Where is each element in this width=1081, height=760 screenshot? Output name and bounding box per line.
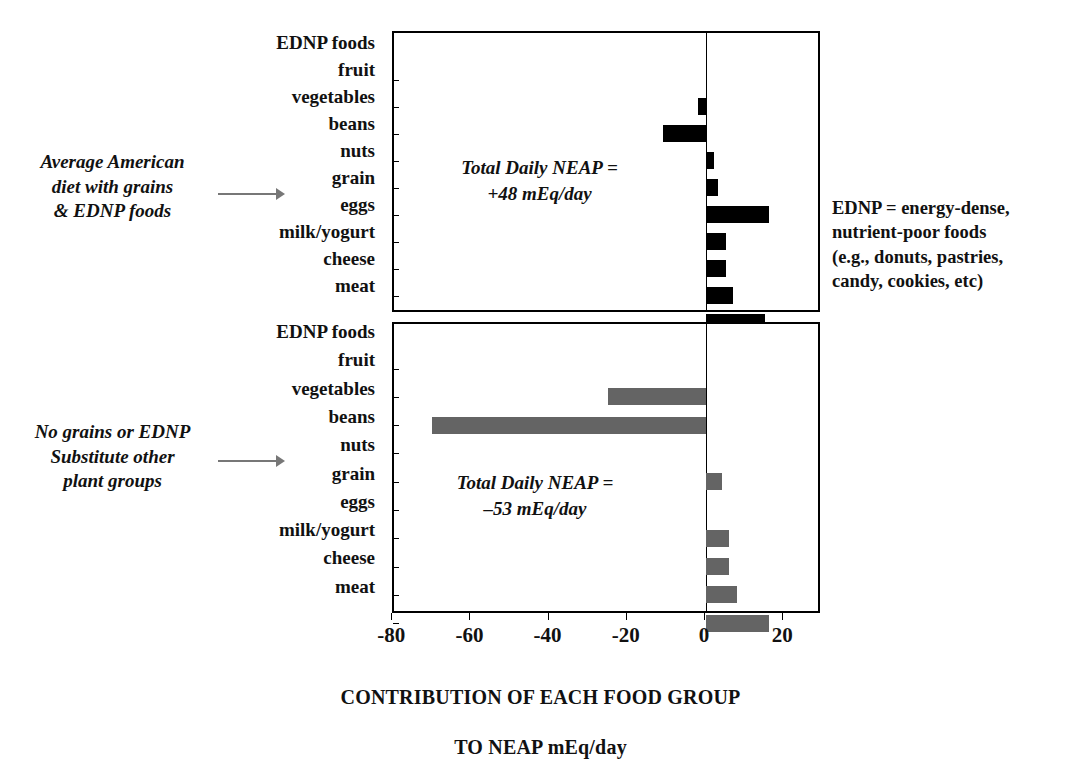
ednp-definition-note: EDNP = energy-dense, nutrient-poor foods… bbox=[832, 196, 1077, 294]
category-label-fruit: fruit bbox=[338, 350, 375, 369]
category-label-beans: beans bbox=[329, 407, 375, 426]
category-label-eggs: eggs bbox=[340, 195, 375, 214]
y-tick bbox=[393, 425, 399, 426]
y-tick bbox=[393, 482, 399, 483]
category-label-milk-yogurt: milk/yogurt bbox=[279, 222, 375, 241]
bar-cheese bbox=[706, 586, 737, 603]
x-tick bbox=[704, 613, 705, 620]
y-tick bbox=[393, 595, 399, 596]
bar-nuts bbox=[706, 179, 718, 196]
x-axis-title-line1: CONTRIBUTION OF EACH FOOD GROUP bbox=[341, 686, 741, 708]
category-label-vegetables: vegetables bbox=[292, 379, 375, 398]
y-tick bbox=[393, 80, 399, 81]
neap-total-label-bottom: Total Daily NEAP = –53 mEq/day bbox=[420, 470, 650, 521]
x-tick bbox=[548, 613, 549, 620]
x-axis-title: CONTRIBUTION OF EACH FOOD GROUP TO NEAP … bbox=[0, 660, 1081, 760]
bar-beans bbox=[706, 152, 714, 169]
y-tick bbox=[393, 296, 399, 297]
panel-annotation-top: Average American diet with grains & EDNP… bbox=[10, 150, 215, 224]
y-tick bbox=[393, 369, 399, 370]
category-label-nuts: nuts bbox=[340, 435, 375, 454]
chart-panel-bottom bbox=[392, 322, 820, 613]
panel-annotation-bottom: No grains or EDNP Substitute other plant… bbox=[10, 420, 215, 494]
x-axis-title-line2: TO NEAP mEq/day bbox=[454, 736, 627, 758]
bar-cheese bbox=[706, 287, 733, 304]
x-tick-label: -20 bbox=[596, 623, 656, 648]
category-label-meat: meat bbox=[335, 276, 375, 295]
category-label-cheese: cheese bbox=[323, 548, 375, 567]
category-label-fruit: fruit bbox=[338, 60, 375, 79]
category-label-ednp-foods: EDNP foods bbox=[276, 322, 375, 341]
y-tick bbox=[393, 215, 399, 216]
category-label-ednp-foods: EDNP foods bbox=[276, 33, 375, 52]
y-tick bbox=[393, 453, 399, 454]
category-label-beans: beans bbox=[329, 114, 375, 133]
y-tick bbox=[393, 269, 399, 270]
x-tick bbox=[626, 613, 627, 620]
bar-vegetables bbox=[663, 125, 706, 142]
x-tick-label: -60 bbox=[439, 623, 499, 648]
y-tick bbox=[393, 107, 399, 108]
x-tick bbox=[469, 613, 470, 620]
bar-nuts bbox=[706, 473, 722, 490]
x-tick-label: 0 bbox=[674, 623, 734, 648]
category-label-milk-yogurt: milk/yogurt bbox=[279, 520, 375, 539]
category-label-eggs: eggs bbox=[340, 492, 375, 511]
bar-eggs bbox=[706, 233, 726, 250]
x-tick-label: -40 bbox=[518, 623, 578, 648]
bar-vegetables bbox=[432, 417, 706, 434]
bar-fruit bbox=[608, 388, 706, 405]
y-tick bbox=[393, 161, 399, 162]
annotation-arrow-top bbox=[218, 188, 286, 200]
y-tick bbox=[393, 188, 399, 189]
category-label-grain: grain bbox=[332, 168, 375, 187]
x-tick bbox=[782, 613, 783, 620]
y-tick bbox=[393, 510, 399, 511]
bar-grain bbox=[706, 206, 769, 223]
bar-milk-yogurt bbox=[706, 558, 729, 575]
category-label-vegetables: vegetables bbox=[292, 87, 375, 106]
neap-total-label-top: Total Daily NEAP = +48 mEq/day bbox=[432, 155, 647, 206]
x-tick-label: 20 bbox=[752, 623, 812, 648]
y-tick bbox=[393, 134, 399, 135]
x-tick bbox=[391, 613, 392, 620]
y-tick bbox=[393, 538, 399, 539]
bar-fruit bbox=[698, 98, 706, 115]
y-tick bbox=[393, 567, 399, 568]
bar-milk-yogurt bbox=[706, 260, 726, 277]
category-label-cheese: cheese bbox=[323, 249, 375, 268]
y-tick bbox=[393, 397, 399, 398]
annotation-arrow-bottom bbox=[218, 455, 286, 467]
bar-eggs bbox=[706, 530, 729, 547]
y-tick bbox=[393, 242, 399, 243]
category-label-grain: grain bbox=[332, 464, 375, 483]
category-label-meat: meat bbox=[335, 577, 375, 596]
x-tick-label: -80 bbox=[361, 623, 421, 648]
category-label-nuts: nuts bbox=[340, 141, 375, 160]
